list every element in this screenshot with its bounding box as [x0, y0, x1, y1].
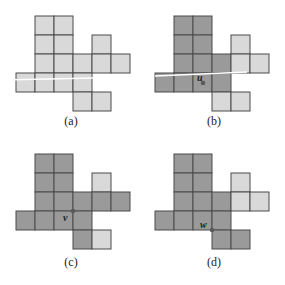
- grid-cell: [250, 54, 269, 73]
- grid-cell: [193, 35, 212, 54]
- grid-cell: [35, 154, 54, 173]
- panel-c: v (c): [0, 143, 142, 285]
- grid-cell: [92, 92, 111, 111]
- grid-cell: [92, 230, 111, 249]
- grid-cell: [174, 16, 193, 35]
- grid-cell: [231, 230, 250, 249]
- grid-cell: [35, 16, 54, 35]
- grid-cell: [35, 192, 54, 211]
- grid-cell: [174, 192, 193, 211]
- vertex-label: w: [200, 219, 207, 230]
- grid-cell: [193, 154, 212, 173]
- vertex-point: [71, 209, 76, 214]
- grid-cell: [212, 54, 231, 73]
- vertex-label: v: [63, 212, 68, 223]
- grid-cell: [231, 54, 250, 73]
- grid-cell: [193, 54, 212, 73]
- grid-cell: [231, 92, 250, 111]
- grid-cell: [73, 54, 92, 73]
- grid-cell: [174, 173, 193, 192]
- grid-cell: [92, 173, 111, 192]
- grid-cell: [212, 230, 231, 249]
- panel-a: (a): [0, 0, 142, 142]
- grid-cell: [212, 73, 231, 92]
- grid-cell: [212, 92, 231, 111]
- grid-cell: [35, 173, 54, 192]
- grid-cell: [193, 173, 212, 192]
- grid-cell: [54, 35, 73, 54]
- panel-d: w (d): [143, 143, 285, 285]
- grid-cell: [35, 73, 54, 92]
- grid-cell: [73, 92, 92, 111]
- grid-cell: [174, 35, 193, 54]
- grid-cell: [16, 211, 35, 230]
- grid-cell: [73, 73, 92, 92]
- grid-cell: [174, 54, 193, 73]
- grid-cell: [92, 35, 111, 54]
- grid-cell: [92, 54, 111, 73]
- grid-cell: [212, 211, 231, 230]
- grid-cell: [54, 54, 73, 73]
- grid-cell: [35, 211, 54, 230]
- grid-cell: [231, 173, 250, 192]
- caption-c: (c): [0, 255, 142, 270]
- grid-cell: [92, 192, 111, 211]
- grid-cell: [250, 192, 269, 211]
- grid-cell: [174, 154, 193, 173]
- grid-cell: [16, 73, 35, 92]
- grid-cell: [155, 211, 174, 230]
- grid-cell: [54, 16, 73, 35]
- grid-cell: [231, 35, 250, 54]
- grid-cell: [54, 173, 73, 192]
- grid-cell: [73, 192, 92, 211]
- panel-b: u (b): [143, 0, 285, 142]
- grid-cell: [174, 211, 193, 230]
- grid-cell: [193, 16, 212, 35]
- grid-cell: [73, 230, 92, 249]
- grid-cell: [54, 192, 73, 211]
- grid-cell: [35, 35, 54, 54]
- grid-cell: [212, 192, 231, 211]
- grid-cell: [174, 73, 193, 92]
- vertex-label: u: [197, 72, 203, 83]
- grid-cell: [193, 192, 212, 211]
- grid-cell: [111, 192, 130, 211]
- grid-cell: [231, 192, 250, 211]
- grid-cell: [54, 73, 73, 92]
- grid-cell: [35, 54, 54, 73]
- grid-cell: [73, 211, 92, 230]
- vertex-point: [210, 228, 215, 233]
- caption-a: (a): [0, 114, 142, 129]
- caption-d: (d): [143, 255, 285, 270]
- grid-cell: [54, 154, 73, 173]
- grid-cell: [111, 54, 130, 73]
- caption-b: (b): [143, 114, 285, 129]
